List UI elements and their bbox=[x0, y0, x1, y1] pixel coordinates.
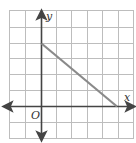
y-axis-down-arrow-icon bbox=[37, 132, 46, 141]
x-axis bbox=[3, 102, 135, 111]
grid bbox=[9, 10, 134, 139]
origin-label: O bbox=[31, 109, 40, 122]
y-axis-up-arrow-icon bbox=[37, 10, 46, 19]
x-axis-left-arrow-icon bbox=[3, 102, 12, 111]
y-axis-label: y bbox=[45, 10, 53, 23]
x-axis-label: x bbox=[124, 91, 131, 104]
graph-svg: y x O bbox=[0, 0, 136, 143]
coordinate-plane: y x O bbox=[0, 0, 136, 143]
